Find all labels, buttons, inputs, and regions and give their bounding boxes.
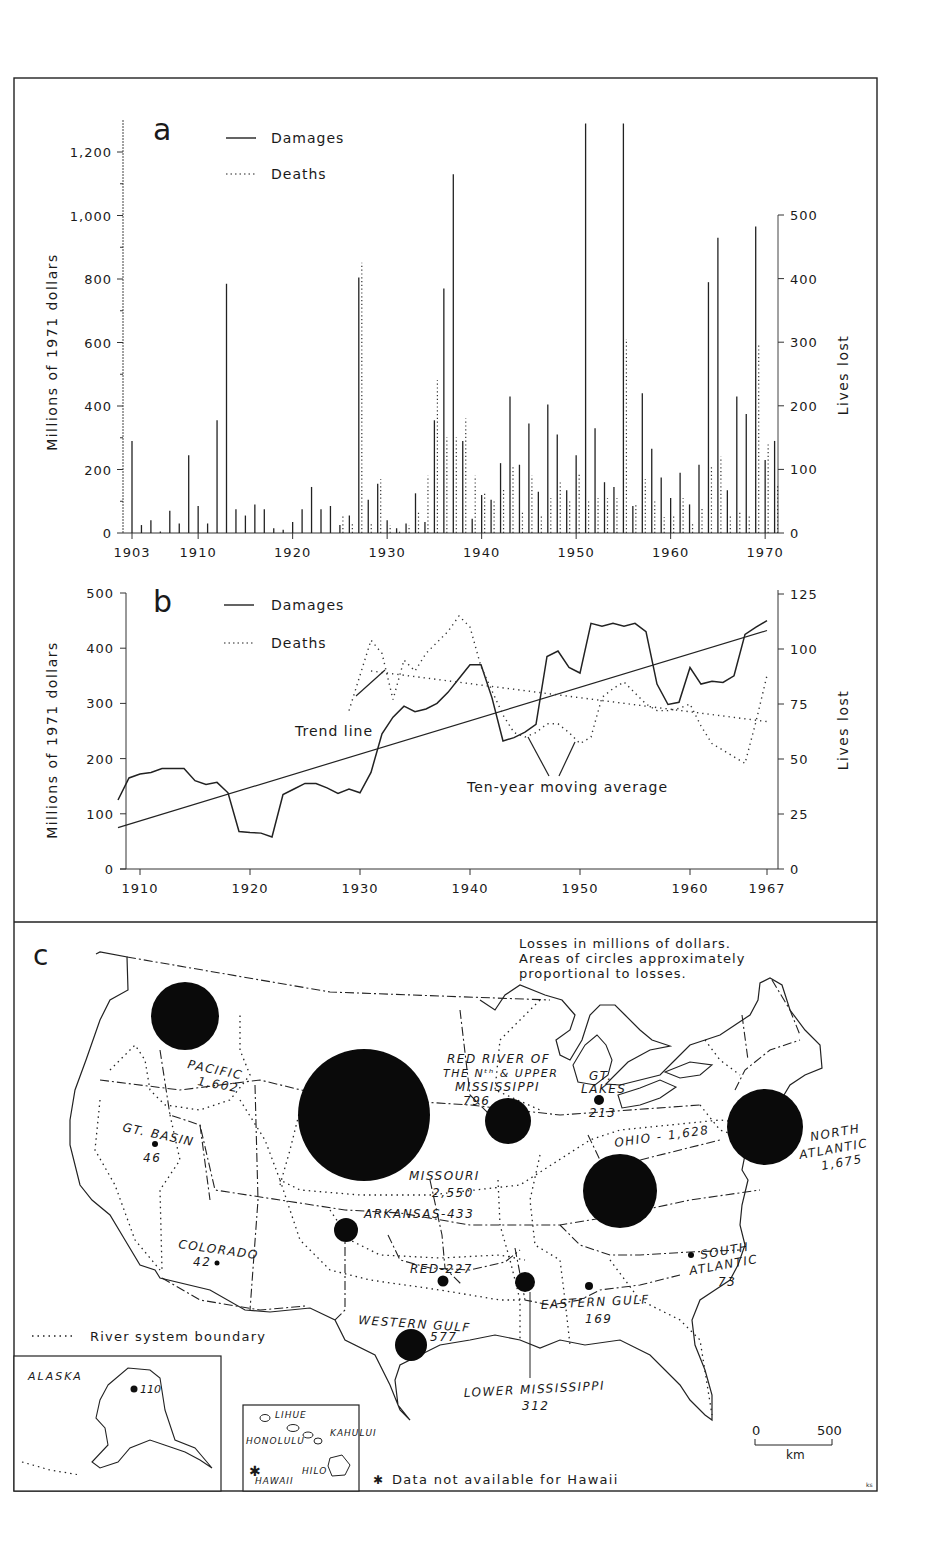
label-eastern-gulf: EASTERN GULF xyxy=(540,1292,650,1312)
value-south-atlantic: 73 xyxy=(718,1275,736,1289)
label-colorado: COLORADO xyxy=(178,1237,260,1262)
x-tick-label: 1910 xyxy=(180,545,217,560)
panel-a-label: a xyxy=(153,112,171,147)
place-hawaii: HAWAII xyxy=(255,1476,294,1486)
asterisk-icon: ✱ xyxy=(249,1463,261,1479)
y-tick-label: 300 xyxy=(86,696,114,711)
circle-arkansas xyxy=(334,1218,358,1242)
place-lihue: LIHUE xyxy=(275,1410,307,1420)
y-tick-label: 0 xyxy=(103,526,112,541)
map-note-line-2: Areas of circles approximately xyxy=(519,951,745,966)
panel-b-chart: b Damages Deaths 0100200300400500 Millio… xyxy=(44,584,851,896)
value-lower-mississippi: 312 xyxy=(522,1399,549,1413)
label-gt-lakes-1: GT. xyxy=(589,1069,613,1083)
panel-b-legend: Damages Deaths xyxy=(224,597,344,651)
y-tick-label: 600 xyxy=(84,336,112,351)
map-note: Losses in millions of dollars. Areas of … xyxy=(519,936,745,981)
panel-b-lines xyxy=(118,616,767,837)
x-tick-label: 1967 xyxy=(748,881,785,896)
scale-end: 500 xyxy=(817,1423,842,1438)
x-tick-label: 1930 xyxy=(341,881,378,896)
legend-damages-label: Damages xyxy=(271,597,344,613)
figure: a Damages Deaths 02004006008001,0001,200… xyxy=(0,0,931,1550)
y-tick-label: 100 xyxy=(86,807,114,822)
alaska-label: ALASKA xyxy=(27,1370,83,1383)
right-tick-label: 100 xyxy=(790,462,818,477)
circle-gt-basin xyxy=(152,1141,158,1147)
x-tick-label: 1950 xyxy=(558,545,595,560)
x-tick-label: 1903 xyxy=(113,545,150,560)
damages-trend-line xyxy=(118,631,767,828)
panel-b-left-ticks: 0100200300400500 xyxy=(86,586,126,877)
trend-line-pointer xyxy=(356,670,385,696)
panel-b-left-axis-title: Millions of 1971 dollars xyxy=(44,641,60,839)
right-tick-label: 25 xyxy=(790,807,809,822)
deaths-trend-line xyxy=(371,671,767,722)
alaska-circle xyxy=(131,1386,138,1393)
x-tick-label: 1960 xyxy=(671,881,708,896)
panel-a-left-axis-title: Millions of 1971 dollars xyxy=(44,253,60,451)
value-rrn: 796 xyxy=(463,1094,490,1108)
legend-damages-label: Damages xyxy=(271,130,344,146)
panel-c-label: c xyxy=(33,939,48,972)
y-tick-label: 800 xyxy=(84,272,112,287)
x-tick-label: 1920 xyxy=(231,881,268,896)
circle-gt-lakes xyxy=(594,1095,604,1105)
panel-a-left-ticks: 02004006008001,0001,200 xyxy=(70,145,123,541)
value-eastern-gulf: 169 xyxy=(585,1312,612,1326)
place-kahului: KAHULUI xyxy=(330,1428,377,1438)
x-tick-label: 1940 xyxy=(451,881,488,896)
x-tick-label: 1940 xyxy=(463,545,500,560)
hawaii-note: Data not available for Hawaii xyxy=(392,1472,619,1487)
circle-upper-mississippi xyxy=(485,1098,531,1144)
right-tick-label: 300 xyxy=(790,335,818,350)
circle-ohio xyxy=(583,1154,657,1228)
right-tick-label: 75 xyxy=(790,697,809,712)
y-tick-label: 200 xyxy=(86,752,114,767)
right-tick-label: 0 xyxy=(790,862,799,877)
circle-south-atlantic xyxy=(688,1252,694,1258)
legend-deaths-label: Deaths xyxy=(271,166,327,182)
panel-a-legend: Damages Deaths xyxy=(226,130,344,182)
circle-eastern-gulf xyxy=(585,1282,593,1290)
label-gt-basin: GT. BASIN xyxy=(121,1120,195,1149)
annotation-moving-average: Ten-year moving average xyxy=(466,779,668,795)
label-lower-mississippi: LOWER MISSISSIPPI xyxy=(463,1379,605,1400)
value-gt-lakes: 213 xyxy=(589,1106,616,1120)
y-tick-label: 1,200 xyxy=(70,145,112,160)
scale-start: 0 xyxy=(752,1423,760,1438)
y-tick-label: 400 xyxy=(86,641,114,656)
credit: ks xyxy=(866,1481,873,1488)
value-western-gulf: 577 xyxy=(430,1330,457,1344)
circle-pacific xyxy=(151,982,219,1050)
x-tick-label: 1970 xyxy=(747,545,784,560)
panel-b-label: b xyxy=(153,584,172,619)
label-arkansas: ARKANSAS-433 xyxy=(363,1207,474,1221)
label-gt-lakes-2: LAKES xyxy=(581,1082,626,1096)
y-tick-label: 400 xyxy=(84,399,112,414)
deaths-moving-average-line xyxy=(349,616,767,763)
place-honolulu: HONOLULU xyxy=(246,1436,305,1446)
panel-a-chart: a Damages Deaths 02004006008001,0001,200… xyxy=(44,112,851,560)
x-tick-label: 1950 xyxy=(561,881,598,896)
x-tick-label: 1930 xyxy=(369,545,406,560)
right-tick-label: 125 xyxy=(790,587,818,602)
map-note-line-1: Losses in millions of dollars. xyxy=(519,936,731,951)
circle-missouri xyxy=(298,1049,430,1181)
label-rrn-3: MISSISSIPPI xyxy=(455,1080,540,1094)
y-tick-label: 200 xyxy=(84,463,112,478)
circle-colorado xyxy=(215,1261,220,1266)
legend-boundary-label: River system boundary xyxy=(90,1329,266,1344)
value-gt-basin: 46 xyxy=(143,1151,161,1165)
right-tick-label: 50 xyxy=(790,752,809,767)
right-tick-label: 200 xyxy=(790,399,818,414)
right-tick-label: 400 xyxy=(790,272,818,287)
circle-north-atlantic xyxy=(727,1089,803,1165)
moving-average-pointer-right xyxy=(559,742,575,776)
right-tick-label: 100 xyxy=(790,642,818,657)
place-hilo: HILO xyxy=(302,1466,327,1476)
circle-western-gulf xyxy=(395,1329,427,1361)
annotation-trend-line: Trend line xyxy=(294,723,373,739)
label-rrn-1: RED RIVER OF xyxy=(447,1052,550,1066)
right-tick-label: 500 xyxy=(790,208,818,223)
